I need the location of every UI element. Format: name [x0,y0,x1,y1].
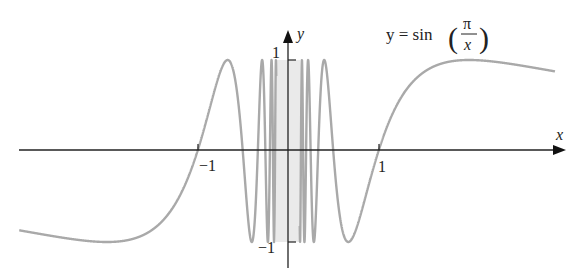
equation-denominator: x [463,36,471,53]
equation-left-paren: ( [448,21,458,55]
equation-annotation: y = sin ( π x ) [386,15,489,55]
y-tick-label-neg1: −1 [258,239,275,256]
chart-canvas: y x −1 1 1 −1 y = sin ( π x ) [0,0,573,278]
equation-prefix: y = sin [386,25,433,44]
equation-numerator: π [463,15,471,32]
x-tick-label-neg1: −1 [199,157,216,174]
y-tick-label-pos1: 1 [272,44,280,61]
x-tick-label-pos1: 1 [378,158,386,175]
y-axis-arrow-icon [283,30,293,43]
y-axis-label: y [295,25,305,43]
equation-right-paren: ) [479,21,489,55]
x-axis-label: x [555,126,563,143]
x-axis-arrow-icon [553,145,566,155]
